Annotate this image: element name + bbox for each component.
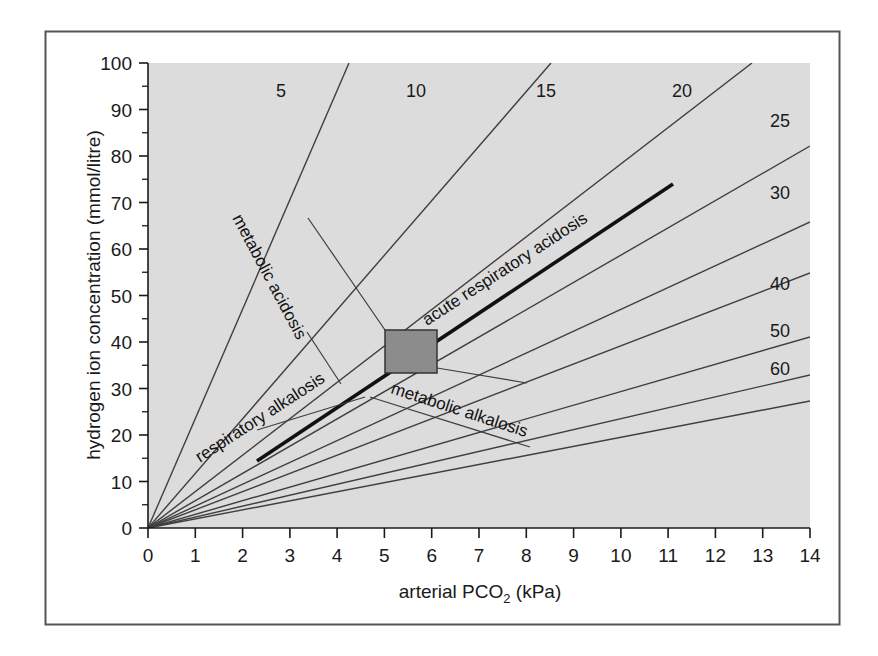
y-axis-title: hydrogen ion concentration (mmol/litre) <box>83 130 104 460</box>
x-tick-label: 5 <box>379 545 390 566</box>
y-tick-label: 20 <box>111 425 132 446</box>
y-tick-label: 40 <box>111 332 132 353</box>
y-tick-label: 30 <box>111 379 132 400</box>
bicarbonate-label-25: 25 <box>770 111 790 131</box>
x-tick-label: 14 <box>799 545 821 566</box>
x-axis-title-subscript: 2 <box>503 591 510 606</box>
bicarbonate-label-15: 15 <box>536 81 556 101</box>
bicarbonate-label-5: 5 <box>276 81 286 101</box>
y-tick-label: 90 <box>111 100 132 121</box>
x-tick-label: 13 <box>752 545 773 566</box>
x-tick-label: 6 <box>426 545 437 566</box>
x-tick-label: 10 <box>610 545 631 566</box>
x-tick-labels: 0 1 2 3 4 5 6 7 8 9 10 11 12 13 14 <box>143 545 821 566</box>
acid-base-nomogram: 100 90 80 70 60 50 40 30 20 10 0 0 1 2 3… <box>0 0 878 656</box>
y-tick-label: 0 <box>121 518 132 539</box>
y-tick-label: 80 <box>111 146 132 167</box>
x-tick-label: 3 <box>285 545 296 566</box>
x-tick-label: 7 <box>474 545 485 566</box>
y-tick-label: 100 <box>100 53 132 74</box>
x-tick-label: 8 <box>521 545 532 566</box>
figure-root: 100 90 80 70 60 50 40 30 20 10 0 0 1 2 3… <box>0 0 878 656</box>
x-tick-label: 9 <box>568 545 579 566</box>
y-tick-label: 50 <box>111 286 132 307</box>
bicarbonate-label-10: 10 <box>406 81 426 101</box>
x-tick-label: 12 <box>705 545 726 566</box>
bicarbonate-label-20: 20 <box>672 81 692 101</box>
bicarbonate-label-60: 60 <box>770 359 790 379</box>
bicarbonate-label-50: 50 <box>770 321 790 341</box>
x-axis-title-main: arterial PCO <box>399 581 504 602</box>
x-tick-label: 2 <box>237 545 248 566</box>
y-tick-label: 60 <box>111 239 132 260</box>
y-tick-label: 10 <box>111 472 132 493</box>
bicarbonate-label-40: 40 <box>770 274 790 294</box>
x-tick-label: 4 <box>332 545 343 566</box>
x-tick-label: 11 <box>658 545 678 566</box>
y-tick-label: 70 <box>111 193 132 214</box>
x-tick-label: 1 <box>190 545 201 566</box>
x-tick-label: 0 <box>143 545 154 566</box>
normal-range-box[interactable] <box>385 330 437 373</box>
bicarbonate-label-30: 30 <box>770 183 790 203</box>
x-axis-title-unit: (kPa) <box>511 581 562 602</box>
